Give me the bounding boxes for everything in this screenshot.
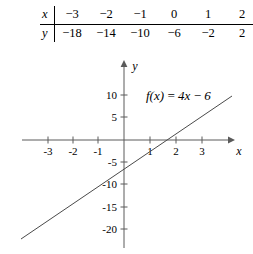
graph-panel: -3 -2 -1 1 2 3 10 5 -5 -10 -15 -20 y x f… <box>0 52 253 254</box>
y-tick-label-5: 5 <box>112 111 118 123</box>
x-axis-label: x <box>235 144 242 158</box>
table-cell-x-4: 1 <box>191 6 225 24</box>
x-tick-label-neg3: -3 <box>43 145 53 157</box>
y-tick-label-neg5: -5 <box>108 156 118 168</box>
value-table-grid: x −3 −2 −1 0 1 2 y −18 −14 −10 −6 −2 2 <box>40 6 253 42</box>
table-row: y −18 −14 −10 −6 −2 2 <box>40 24 253 42</box>
table-cell-y-5: 2 <box>225 24 253 42</box>
table-row-header-x: x <box>40 6 54 24</box>
y-tick-label-neg10: -10 <box>102 178 117 190</box>
table-cell-x-1: −2 <box>89 6 123 24</box>
x-tick-label-neg2: -2 <box>68 145 77 157</box>
x-axis-arrow-icon <box>228 137 235 144</box>
y-axis-label: y <box>131 59 138 73</box>
table-cell-x-3: 0 <box>157 6 191 24</box>
value-table: x −3 −2 −1 0 1 2 y −18 −14 −10 −6 −2 2 <box>40 6 215 48</box>
table-cell-x-2: −1 <box>123 6 157 24</box>
table-cell-y-3: −6 <box>157 24 191 42</box>
table-cell-y-2: −10 <box>123 24 157 42</box>
table-cell-y-4: −2 <box>191 24 225 42</box>
x-tick-label-2: 2 <box>173 145 179 157</box>
x-tick-label-3: 3 <box>199 145 205 157</box>
graph-svg: -3 -2 -1 1 2 3 10 5 -5 -10 -15 -20 y x f… <box>0 52 253 254</box>
y-tick-label-neg20: -20 <box>102 223 117 235</box>
figure-root: x −3 −2 −1 0 1 2 y −18 −14 −10 −6 −2 2 <box>0 0 253 254</box>
table-cell-y-0: −18 <box>54 24 89 42</box>
y-tick-label-10: 10 <box>106 89 118 101</box>
table-cell-y-1: −14 <box>89 24 123 42</box>
table-row: x −3 −2 −1 0 1 2 <box>40 6 253 24</box>
table-row-header-y: y <box>40 24 54 42</box>
table-cell-x-5: 2 <box>225 6 253 24</box>
y-tick-label-neg15: -15 <box>102 201 117 213</box>
table-cell-x-0: −3 <box>54 6 89 24</box>
x-tick-label-neg1: -1 <box>93 145 102 157</box>
function-label: f(x) = 4x − 6 <box>146 88 211 103</box>
y-axis-arrow-icon <box>121 60 128 67</box>
